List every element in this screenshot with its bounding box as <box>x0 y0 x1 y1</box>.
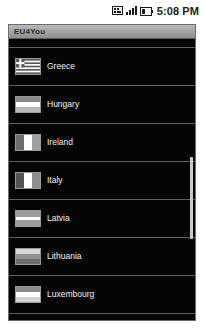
country-list[interactable]: Greece Hungary <box>9 39 195 320</box>
status-clock: 5:08 PM <box>157 5 199 17</box>
list-item[interactable]: Luxembourg <box>9 276 195 314</box>
sd-card-icon <box>112 2 123 20</box>
flag-greece <box>15 58 41 75</box>
flag-ireland <box>15 134 41 151</box>
scrollbar-thumb[interactable] <box>190 157 193 239</box>
status-bar: 5:08 PM <box>0 0 204 22</box>
list-item[interactable]: Latvia <box>9 200 195 238</box>
flag-italy <box>15 172 41 189</box>
app-title: EU4You <box>14 28 45 36</box>
scrollbar-track[interactable] <box>190 39 194 320</box>
list-item-label: Luxembourg <box>47 290 94 299</box>
status-icon-group <box>112 2 153 20</box>
list-item-label: Ireland <box>47 138 73 147</box>
flag-luxembourg <box>15 286 41 303</box>
flag-hungary <box>15 96 41 113</box>
list-item-partial[interactable] <box>9 39 195 48</box>
list-item[interactable]: Greece <box>9 48 195 86</box>
list-item[interactable]: Lithuania <box>9 238 195 276</box>
list-item-label: Latvia <box>47 214 70 223</box>
list-item[interactable]: Hungary <box>9 86 195 124</box>
signal-bars-icon <box>126 2 137 20</box>
list-item-label: Greece <box>47 62 75 71</box>
list-item-label: Italy <box>47 176 63 185</box>
phone-screen: 5:08 PM EU4You <box>0 0 204 328</box>
app-title-bar: EU4You <box>9 25 195 39</box>
list-item-label: Lithuania <box>47 252 82 261</box>
list-item[interactable]: Italy <box>9 162 195 200</box>
list-item-label: Hungary <box>47 100 79 109</box>
flag-lithuania <box>15 248 41 265</box>
app-window: EU4You <box>8 24 196 321</box>
battery-icon <box>140 2 153 20</box>
flag-latvia <box>15 210 41 227</box>
list-item[interactable]: Ireland <box>9 124 195 162</box>
